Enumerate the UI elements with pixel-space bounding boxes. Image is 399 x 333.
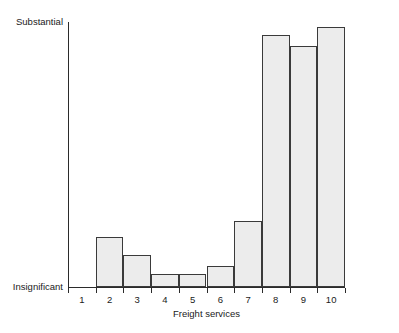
y-axis-label-top: Substantial <box>16 16 63 27</box>
bar-slot <box>290 22 318 287</box>
bar-slot <box>123 22 151 287</box>
x-axis-tick-label-4: 4 <box>162 294 167 305</box>
bar-5 <box>179 274 207 287</box>
bar-3 <box>123 255 151 287</box>
x-axis-tick-label-2: 2 <box>107 294 112 305</box>
x-axis-tick <box>207 288 208 293</box>
x-axis-title: Freight services <box>68 308 345 319</box>
x-axis-tick-label-1: 1 <box>79 294 84 305</box>
x-axis-tick-label-10: 10 <box>326 294 337 305</box>
x-axis-tick-label-5: 5 <box>190 294 195 305</box>
x-axis-tick <box>234 288 235 293</box>
bar-6 <box>207 266 235 287</box>
bar-10 <box>317 27 345 287</box>
x-axis-tick-label-9: 9 <box>301 294 306 305</box>
bar-slot <box>317 22 345 287</box>
x-axis-tick <box>317 288 318 293</box>
bar-9 <box>290 46 318 287</box>
bar-2 <box>96 237 124 287</box>
x-axis-tick-label-6: 6 <box>218 294 223 305</box>
bar-4 <box>151 274 179 287</box>
x-axis-tick-label-3: 3 <box>135 294 140 305</box>
bar-slot <box>151 22 179 287</box>
x-axis-tick <box>151 288 152 293</box>
x-axis-tick <box>68 288 69 293</box>
bar-8 <box>262 35 290 287</box>
bar-slot <box>96 22 124 287</box>
bar-slot <box>262 22 290 287</box>
bar-slot <box>234 22 262 287</box>
x-axis-tick <box>179 288 180 293</box>
bar-slot <box>68 22 96 287</box>
x-axis-tick <box>290 288 291 293</box>
plot-area <box>68 22 345 287</box>
x-axis-tick-label-8: 8 <box>273 294 278 305</box>
bar-slot <box>179 22 207 287</box>
x-axis-tick <box>345 288 346 293</box>
x-axis-tick <box>96 288 97 293</box>
bar-slot <box>207 22 235 287</box>
chart-container: Substantial Insignificant 12345678910 Fr… <box>0 0 399 333</box>
bar-7 <box>234 221 262 287</box>
y-axis-label-bottom: Insignificant <box>13 281 63 292</box>
x-axis-tick <box>123 288 124 293</box>
x-axis-tick <box>262 288 263 293</box>
x-axis-tick-label-7: 7 <box>245 294 250 305</box>
